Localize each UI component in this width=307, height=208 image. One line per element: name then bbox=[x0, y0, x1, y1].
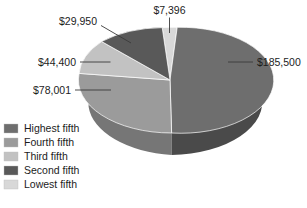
legend-label-third-fifth: Third fifth bbox=[24, 150, 68, 162]
value-label-third-fifth: $44,400 bbox=[38, 56, 76, 68]
legend-label-highest-fifth: Highest fifth bbox=[24, 122, 80, 134]
value-label-highest-fifth: $185,500 bbox=[257, 56, 301, 68]
legend-label-second-fifth: Second fifth bbox=[24, 164, 80, 176]
legend-swatch-icon-third-fifth bbox=[4, 152, 18, 161]
legend-swatch-icon-lowest-fifth bbox=[4, 180, 18, 189]
legend-swatch-icon-highest-fifth bbox=[4, 124, 18, 133]
value-label-second-fifth: $29,950 bbox=[59, 15, 97, 27]
legend-item-highest-fifth[interactable]: Highest fifth bbox=[4, 122, 80, 134]
value-label-lowest-fifth: $7,396 bbox=[153, 4, 185, 16]
chart-canvas: $7,396 $29,950 $44,400 $78,001 $185,500 … bbox=[0, 0, 307, 208]
legend-swatch-icon-second-fifth bbox=[4, 166, 18, 175]
legend-item-fourth-fifth[interactable]: Fourth fifth bbox=[4, 136, 74, 148]
legend-label-lowest-fifth: Lowest fifth bbox=[24, 178, 77, 190]
value-label-fourth-fifth: $78,001 bbox=[33, 84, 71, 96]
legend-item-third-fifth[interactable]: Third fifth bbox=[4, 150, 68, 162]
legend-swatch-icon-fourth-fifth bbox=[4, 138, 18, 147]
legend-item-lowest-fifth[interactable]: Lowest fifth bbox=[4, 178, 77, 190]
pie-top-face bbox=[78, 27, 273, 133]
pie-chart-figure: $7,396 $29,950 $44,400 $78,001 $185,500 … bbox=[0, 0, 307, 208]
legend-label-fourth-fifth: Fourth fifth bbox=[24, 136, 74, 148]
legend-item-second-fifth[interactable]: Second fifth bbox=[4, 164, 80, 176]
